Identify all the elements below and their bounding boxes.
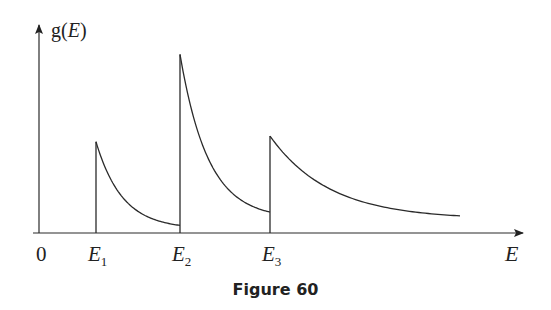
- x-tick-label: E1: [87, 242, 107, 269]
- figure-caption: Figure 60: [0, 280, 551, 299]
- y-axis-label: g(E): [51, 19, 87, 42]
- x-axis-label: E: [504, 241, 519, 266]
- E2-branch-decay-curve: [180, 54, 270, 212]
- dos-diagram: g(E) E 0E1E2E3: [0, 0, 551, 310]
- x-tick-label: E2: [171, 242, 191, 269]
- E1-branch-decay-curve: [96, 142, 180, 226]
- x-tick-label: E3: [261, 242, 281, 269]
- x-tick-label: 0: [36, 242, 47, 266]
- E3-branch-decay-curve: [270, 136, 460, 216]
